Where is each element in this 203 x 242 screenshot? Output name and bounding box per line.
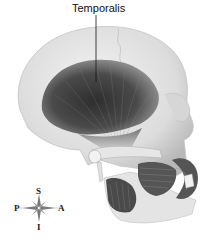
compass-anterior-label: A [58,203,65,213]
temporalis-label: Temporalis [72,2,125,14]
compass-inferior-label: I [37,222,41,232]
compass-rose-icon [19,194,59,222]
compass-superior-label: S [36,186,41,196]
compass-posterior-label: P [14,203,20,213]
skull-illustration [0,0,203,242]
